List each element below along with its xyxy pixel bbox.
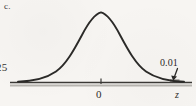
axis-origin-label: 0 [96,88,102,100]
normal-distribution-curve [18,12,184,81]
normal-curve-figure: c. 25 0 z 0.01 [0,0,196,106]
axis-variable-label: z [175,89,179,101]
tail-area-label: 0.01 [160,57,178,68]
